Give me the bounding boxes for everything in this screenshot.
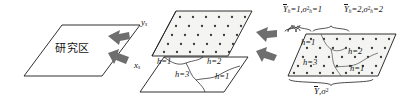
result-stratum-label-1: h=1 [301,38,315,47]
middle-stratum-label-4: h=1 [215,72,229,81]
middle-stratum-label-2: h=2 [207,57,221,66]
x-axis-label: xs [134,61,140,71]
arrow-strata-to-result [256,47,277,62]
y-axis-label: ys [141,18,147,28]
diagram-canvas: 研究区 ys xs h=1 h=2 h=3 h=1 h=1 h=2 h=3 h=… [0,0,410,101]
middle-stratum-label-3: h=3 [175,70,189,79]
result-stratum-label-2: h=2 [348,47,362,56]
stratum-stat-label-2: Yh=2,σ2h=2 [344,5,383,14]
result-stratum-label-3: h=3 [303,58,317,67]
brace-top-right [313,26,349,32]
stratum-stat-label-1: Yh=1,σ2h=1 [283,5,322,14]
arrow-grid-to-result [256,27,277,42]
brace-overall-stat [289,79,373,86]
middle-grid-plane [152,11,252,56]
result-stratum-label-4: h=1 [350,64,364,73]
middle-stratum-label-1: h=1 [157,57,171,66]
overall-stat-label: Y,σ2 [314,87,329,96]
study-area-label: 研究区 [55,43,90,54]
